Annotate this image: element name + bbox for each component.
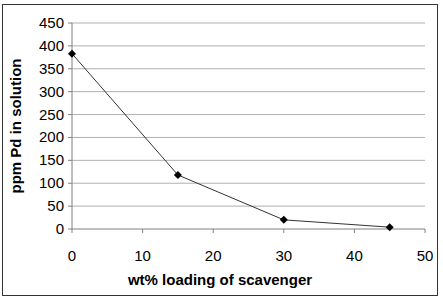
y-tick-label: 450 [39,14,64,31]
y-tick-label: 0 [56,220,64,237]
x-tick-label: 30 [275,247,292,264]
y-axis-label: ppm Pd in solution [7,59,24,194]
y-tick-label: 50 [47,197,64,214]
series-line [72,54,390,227]
y-tick-label: 150 [39,151,64,168]
x-axis-label: wt% loading of scavenger [127,271,312,288]
line-chart: 050100150200250300350400450 01020304050 … [0,0,443,304]
y-tick-label: 250 [39,106,64,123]
diamond-marker [386,223,394,231]
y-tick-label: 100 [39,174,64,191]
x-tick-label: 20 [205,247,222,264]
y-tick-label: 350 [39,60,64,77]
x-tick-label: 10 [134,247,151,264]
x-tick-label: 50 [417,247,434,264]
y-tick-labels: 050100150200250300350400450 [39,14,64,237]
x-tick-labels: 01020304050 [68,247,434,264]
data-series [68,50,394,231]
y-tick-label: 400 [39,37,64,54]
y-tick-label: 300 [39,83,64,100]
y-tick-label: 200 [39,128,64,145]
x-tick-label: 0 [68,247,76,264]
diamond-marker [280,216,288,224]
x-tick-label: 40 [346,247,363,264]
axes [68,23,425,233]
